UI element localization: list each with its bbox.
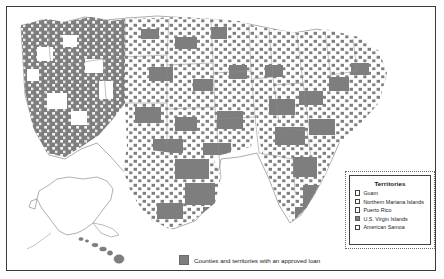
territory-swatch-northern-mariana-islands — [355, 199, 360, 204]
territory-item-puerto-rico: Puerto Rico — [355, 207, 425, 213]
legend-label-approved-loan: Counties and territories with an approve… — [194, 257, 320, 264]
territory-item-us-virgin-islands: U.S. Virgin Islands — [355, 216, 425, 222]
territory-swatch-puerto-rico — [355, 207, 360, 212]
alaska-inset — [27, 177, 119, 249]
territory-item-american-samoa: American Samoa — [355, 224, 425, 230]
approved-counties-plains — [123, 15, 263, 161]
territory-item-guam: Guam — [355, 190, 425, 196]
territory-label-guam: Guam — [363, 190, 378, 196]
figure-frame: Territories Guam Northern Mariana Island… — [6, 6, 436, 271]
territory-swatch-guam — [355, 190, 360, 195]
territories-legend-box: Territories Guam Northern Mariana Island… — [349, 175, 431, 245]
map-legend: Counties and territories with an approve… — [179, 255, 320, 265]
legend-swatch-approved-loan — [179, 255, 189, 265]
territory-label-american-samoa: American Samoa — [363, 224, 404, 230]
territory-swatch-american-samoa — [355, 225, 360, 230]
territories-legend: Territories Guam Northern Mariana Island… — [345, 171, 435, 249]
map-figure: Territories Guam Northern Mariana Island… — [0, 0, 444, 279]
territory-label-puerto-rico: Puerto Rico — [363, 207, 391, 213]
territory-item-northern-mariana-islands: Northern Mariana Islands — [355, 199, 425, 205]
territory-label-northern-mariana-islands: Northern Mariana Islands — [363, 199, 424, 205]
territory-label-us-virgin-islands: U.S. Virgin Islands — [363, 216, 407, 222]
territories-legend-title: Territories — [355, 180, 425, 187]
territory-swatch-us-virgin-islands — [355, 216, 360, 221]
hawaii-inset — [79, 238, 124, 264]
